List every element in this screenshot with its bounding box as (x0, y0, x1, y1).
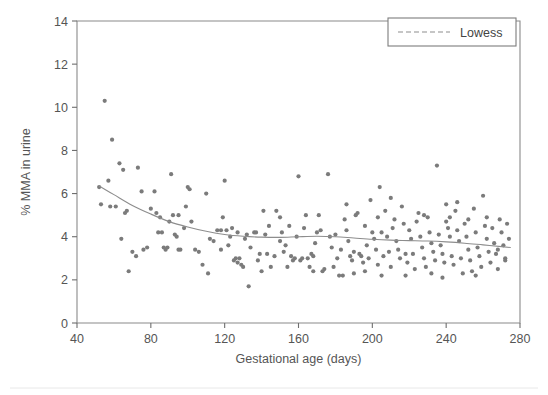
data-point (165, 245, 169, 249)
data-point (280, 230, 284, 234)
data-point (496, 267, 500, 271)
data-point (307, 265, 311, 269)
data-point (403, 273, 407, 277)
x-tick-label: 240 (436, 332, 457, 346)
data-point (319, 228, 323, 232)
data-point (149, 207, 153, 211)
data-point (215, 228, 219, 232)
data-point (247, 284, 251, 288)
legend-label-lowess: Lowess (460, 26, 502, 40)
data-point (254, 230, 258, 234)
data-point (269, 265, 273, 269)
data-point (169, 172, 173, 176)
data-point (184, 204, 188, 208)
data-point (402, 222, 406, 226)
data-point (453, 209, 457, 213)
x-tick-label: 280 (510, 332, 531, 346)
data-point (285, 265, 289, 269)
data-point (389, 265, 393, 269)
data-point (154, 211, 158, 215)
data-point (405, 261, 409, 265)
data-point (119, 237, 123, 241)
data-point (507, 237, 511, 241)
data-point (304, 213, 308, 217)
data-point (317, 213, 321, 217)
data-point (234, 256, 238, 260)
data-point (265, 252, 269, 256)
data-point (363, 269, 367, 273)
data-point (448, 235, 452, 239)
data-point (437, 232, 441, 236)
data-point (311, 269, 315, 273)
data-point (431, 250, 435, 254)
data-point (470, 269, 474, 273)
data-point (261, 209, 265, 213)
data-point (418, 235, 422, 239)
data-point (474, 230, 478, 234)
data-point (211, 239, 215, 243)
data-point (363, 224, 367, 228)
data-point (326, 172, 330, 176)
data-point (140, 189, 144, 193)
data-point (420, 245, 424, 249)
data-point (435, 163, 439, 167)
data-point (114, 204, 118, 208)
data-point (219, 228, 223, 232)
data-point (352, 271, 356, 275)
data-point (296, 174, 300, 178)
data-point (346, 239, 350, 243)
chart-legend: Lowess (388, 18, 516, 46)
data-point (274, 209, 278, 213)
y-tick-label: 8 (61, 144, 68, 158)
data-point (335, 256, 339, 260)
data-point (350, 258, 354, 262)
data-point (429, 271, 433, 275)
data-point (439, 243, 443, 247)
data-point (422, 256, 426, 260)
data-point (208, 237, 212, 241)
data-point (248, 245, 252, 249)
data-point (267, 224, 271, 228)
data-point (396, 248, 400, 252)
data-point (472, 207, 476, 211)
data-point (204, 191, 208, 195)
data-point (263, 232, 267, 236)
data-point (392, 217, 396, 221)
data-point (99, 202, 103, 206)
data-point (492, 241, 496, 245)
data-point (243, 237, 247, 241)
data-point (197, 250, 201, 254)
data-point (440, 276, 444, 280)
data-point (446, 226, 450, 230)
data-point (466, 217, 470, 221)
y-tick-label: 0 (61, 317, 68, 331)
data-point (483, 224, 487, 228)
data-point (444, 202, 448, 206)
data-point (459, 256, 463, 260)
data-point (389, 196, 393, 200)
plot-frame (77, 21, 520, 323)
data-point (108, 204, 112, 208)
data-point (226, 243, 230, 247)
data-point (152, 189, 156, 193)
data-point (424, 265, 428, 269)
data-point (474, 273, 478, 277)
y-tick-label: 12 (54, 58, 68, 72)
y-tick-label: 14 (54, 15, 68, 29)
data-point (313, 241, 317, 245)
data-point (352, 250, 356, 254)
axis-tick-labels: 024681012144080120160200240280 (54, 15, 530, 347)
data-point (136, 166, 140, 170)
data-point (178, 248, 182, 252)
data-point (241, 265, 245, 269)
data-point (376, 263, 380, 267)
data-point (221, 215, 225, 219)
data-point (463, 222, 467, 226)
data-point (440, 252, 444, 256)
y-tick-label: 10 (54, 101, 68, 115)
axis-ticks (72, 21, 520, 328)
data-point (370, 230, 374, 234)
data-point (394, 239, 398, 243)
data-point (488, 261, 492, 265)
data-point (333, 232, 337, 236)
